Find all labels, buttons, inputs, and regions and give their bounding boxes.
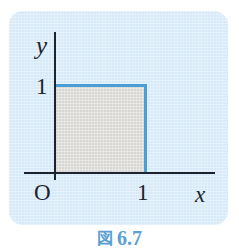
figure-caption-kanji: 図 [97, 230, 113, 247]
x-axis-tick-label-1: 1 [137, 181, 149, 204]
unit-square-shaded-region [55, 87, 144, 173]
origin-label: O [34, 181, 51, 204]
y-axis-line [54, 32, 56, 180]
figure-caption: 図6.7 [0, 228, 239, 248]
unit-square-top-edge-line [54, 84, 147, 87]
x-axis-label: x [195, 183, 205, 206]
x-axis-line [24, 172, 215, 174]
y-axis-label: y [36, 33, 47, 58]
figure-panel: y x 1 1 O [9, 11, 228, 225]
y-axis-tick-label-1: 1 [36, 75, 48, 98]
plot-area: y x 1 1 O [9, 11, 228, 225]
figure-caption-number: 6.7 [117, 227, 142, 249]
unit-square-right-edge-line [144, 84, 147, 174]
